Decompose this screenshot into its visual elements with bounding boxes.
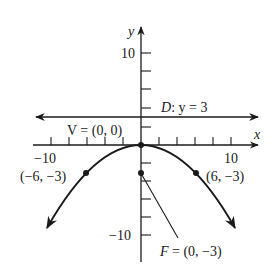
y-axis-label: y	[126, 24, 135, 39]
point-6-neg3-label: (6, −3)	[206, 169, 245, 185]
parabola-figure: x −10 10 y 10 −10 D: y = 3 V = (0, 0)	[0, 0, 274, 271]
point-6-neg3	[193, 170, 199, 176]
y-tick-label-neg10: −10	[109, 228, 131, 243]
x-tick-label-neg10: −10	[34, 151, 56, 166]
point-neg6-neg3	[83, 170, 89, 176]
y-axis: y 10 −10	[109, 24, 151, 262]
vertex-point	[138, 142, 144, 148]
focus-label-rest: = (0, −3)	[169, 244, 222, 260]
focus-label: F = (0, −3)	[159, 244, 222, 260]
vertex-label: V = (0, 0)	[67, 123, 122, 139]
x-axis-label: x	[253, 127, 261, 142]
focus-leader-line	[142, 175, 178, 238]
directrix-label-d: D	[160, 100, 171, 115]
x-tick-label-10: 10	[224, 151, 238, 166]
focus-label-f: F	[159, 244, 169, 259]
focus-point	[138, 170, 144, 176]
directrix-label: D: y = 3	[160, 100, 207, 115]
point-neg6-neg3-label: (−6, −3)	[20, 169, 66, 185]
y-tick-label-10: 10	[121, 46, 135, 61]
directrix-label-eq: : y = 3	[171, 100, 207, 115]
